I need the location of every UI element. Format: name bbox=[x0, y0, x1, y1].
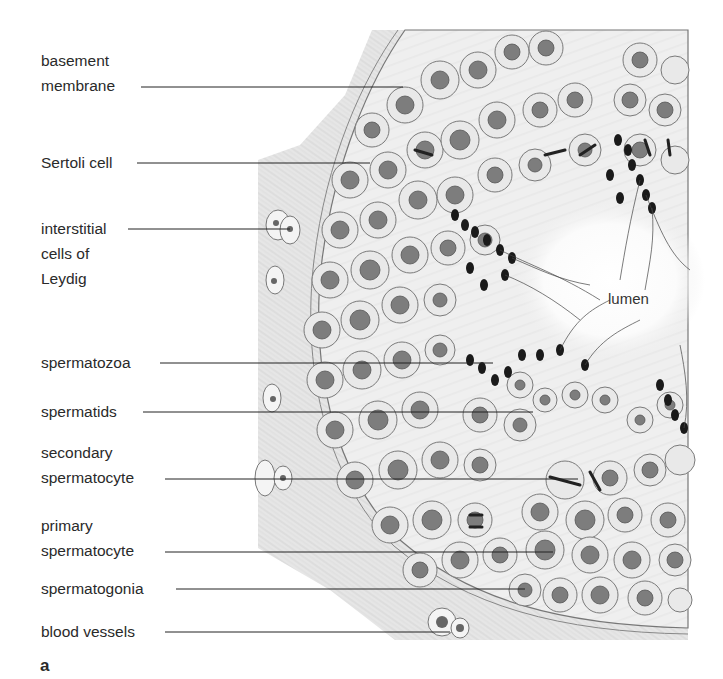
label-line: cells of bbox=[41, 241, 106, 266]
label-line: primary bbox=[41, 513, 134, 538]
label-line: interstitial bbox=[41, 216, 106, 241]
label-line: spermatogonia bbox=[41, 576, 144, 601]
label-line: Leydig bbox=[41, 266, 106, 291]
label-line: basement bbox=[41, 48, 115, 73]
label-basement-membrane: basementmembrane bbox=[41, 48, 115, 98]
label-spermatids: spermatids bbox=[41, 399, 117, 424]
label-line: spermatocyte bbox=[41, 538, 134, 563]
label-line: secondary bbox=[41, 440, 134, 465]
label-spermatogonia: spermatogonia bbox=[41, 576, 144, 601]
label-blood-vessels: blood vessels bbox=[41, 619, 135, 644]
label-line: spermatids bbox=[41, 399, 117, 424]
label-line: blood vessels bbox=[41, 619, 135, 644]
label-line: Sertoli cell bbox=[41, 150, 113, 175]
label-line: spermatozoa bbox=[41, 350, 131, 375]
lumen-label: lumen bbox=[608, 290, 649, 307]
panel-letter: a bbox=[40, 656, 49, 676]
label-line: membrane bbox=[41, 73, 115, 98]
label-secondary-spermatocyte: secondaryspermatocyte bbox=[41, 440, 134, 490]
label-line: spermatocyte bbox=[41, 465, 134, 490]
label-sertoli-cell: Sertoli cell bbox=[41, 150, 113, 175]
label-interstitial-cells-of-leydig: interstitialcells ofLeydig bbox=[41, 216, 106, 291]
label-spermatozoa: spermatozoa bbox=[41, 350, 131, 375]
label-primary-spermatocyte: primaryspermatocyte bbox=[41, 513, 134, 563]
